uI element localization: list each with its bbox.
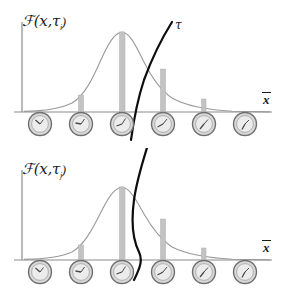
x-axis-label-bottom: x bbox=[262, 240, 271, 256]
bar-bottom-2 bbox=[120, 187, 126, 260]
tau-curve-label: τ bbox=[175, 18, 182, 32]
y-axis-label-bottom: ℱ(x,τj) bbox=[22, 160, 66, 180]
panel-top: ℱ(x,τi) x τ bbox=[0, 0, 286, 147]
clock-icon bbox=[193, 261, 216, 284]
clock-icon bbox=[29, 261, 52, 284]
clock-icon bbox=[234, 113, 257, 136]
bar-bottom-1 bbox=[79, 245, 84, 260]
bar-top-3 bbox=[161, 69, 166, 112]
clock-icon bbox=[152, 113, 175, 136]
density-curve-bottom bbox=[24, 187, 270, 260]
clock-row-top bbox=[29, 113, 257, 136]
bar-top-2 bbox=[120, 32, 126, 112]
clock-icon bbox=[70, 261, 93, 284]
bar-bottom-4 bbox=[202, 248, 207, 260]
clock-icon bbox=[29, 113, 52, 136]
clock-icon bbox=[234, 261, 257, 284]
x-axis-label-top: x bbox=[262, 92, 271, 108]
bar-top-1 bbox=[79, 95, 84, 112]
y-axis-label-top: ℱ(x,τi) bbox=[22, 12, 66, 32]
clock-row-bottom bbox=[29, 261, 257, 284]
clock-icon bbox=[70, 113, 93, 136]
bar-bottom-3 bbox=[161, 219, 166, 260]
clock-icon bbox=[111, 261, 134, 284]
clock-icon bbox=[111, 113, 134, 136]
bar-top-4 bbox=[202, 99, 207, 112]
clock-icon bbox=[152, 261, 175, 284]
clock-icon bbox=[193, 113, 216, 136]
